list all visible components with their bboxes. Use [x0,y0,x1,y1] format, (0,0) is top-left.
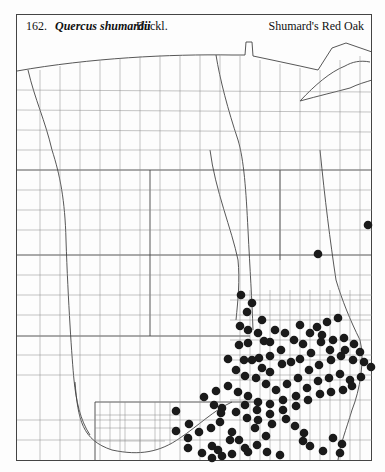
occurrence-dot [305,366,314,375]
occurrence-dot [172,407,181,416]
occurrence-dot [236,322,245,331]
occurrence-dot [268,420,277,429]
occurrence-dot [244,448,253,457]
occurrence-dot [258,316,267,325]
occurrence-dot [291,422,300,431]
occurrence-dot [240,356,249,365]
occurrence-dot [262,432,271,441]
occurrence-dot [243,308,252,317]
occurrence-dot [292,392,301,401]
occurrence-dot [241,401,250,410]
occurrence-dot [254,416,263,425]
occurrence-dot [244,339,253,348]
occurrence-dot [336,370,345,379]
occurrence-dot [279,396,288,405]
occurrence-dot [243,414,252,423]
occurrence-dot [276,451,285,460]
occurrence-dot [234,388,243,397]
occurrence-dot [241,372,250,381]
occurrence-dot [172,427,181,436]
occurrence-dot [278,360,287,369]
occurrence-dot [254,329,263,338]
range-map-page: 162. Quercus shumardii Buckl. Shumard's … [0,0,385,472]
occurrence-dot [235,436,244,445]
occurrence-dot [226,436,235,445]
occurrence-dot [283,380,292,389]
occurrence-dot [228,450,237,459]
occurrence-dot [208,454,217,463]
occurrence-dot [315,361,324,370]
occurrence-dot [184,434,193,443]
occurrence-dot [237,291,246,300]
occurrence-dot [216,418,225,427]
occurrence-dot [266,400,275,409]
occurrence-dot [287,358,296,367]
occurrence-dot [272,386,281,395]
occurrence-dot [323,318,332,327]
occurrence-dot [300,429,309,438]
occurrence-dot [254,398,263,407]
occurrence-dot [350,340,359,349]
occurrence-dot [304,396,313,405]
occurrence-dot [263,448,272,457]
occurrence-dot [281,329,290,338]
occurrence-dot [294,374,303,383]
occurrence-dot [232,408,241,417]
occurrence-dot [282,415,291,424]
occurrence-dot [210,401,219,410]
occurrence-dot [195,428,204,437]
occurrence-dot [212,387,221,396]
occurrence-dot [329,336,338,345]
occurrence-dot [364,221,373,230]
occurrence-dot [318,331,327,340]
occurrence-dot [252,374,261,383]
occurrence-dot [290,336,299,345]
occurrence-dot [339,386,348,395]
county-outline-map [0,0,385,472]
occurrence-dot [299,437,308,446]
occurrence-dot [266,338,275,347]
occurrence-dot [228,428,237,437]
occurrence-dot [217,409,226,418]
occurrence-dot [327,388,336,397]
occurrence-dot [279,406,288,415]
occurrence-dot [262,380,271,389]
occurrence-dot [316,390,325,399]
occurrence-dot [292,402,301,411]
occurrence-dot [306,329,315,338]
occurrence-dot [327,356,336,365]
occurrence-dot [235,341,244,350]
occurrence-dots [172,221,376,463]
occurrence-dot [313,323,322,332]
occurrence-dot [357,373,366,382]
occurrence-dot [253,406,262,415]
occurrence-dot [307,349,316,358]
occurrence-dot [303,384,312,393]
occurrence-dot [244,392,253,401]
occurrence-dot [340,334,349,343]
occurrence-dot [314,250,323,259]
occurrence-dot [207,424,216,433]
occurrence-dot [296,355,305,364]
occurrence-dot [200,393,209,402]
occurrence-dot [266,368,275,377]
occurrence-dot [367,363,376,372]
occurrence-dot [266,410,275,419]
occurrence-dot [349,356,358,365]
occurrence-dot [224,355,233,364]
occurrence-dot [334,314,343,323]
occurrence-dot [224,382,233,391]
occurrence-dot [185,420,194,429]
occurrence-dot [299,340,308,349]
occurrence-dot [306,442,315,451]
occurrence-dot [218,452,227,461]
occurrence-dot [314,377,323,386]
occurrence-dot [251,424,260,433]
occurrence-dot [248,356,257,365]
occurrence-dot [184,444,193,453]
occurrence-dot [338,440,347,449]
occurrence-dot [271,326,280,335]
occurrence-dot [296,321,305,330]
occurrence-dot [348,382,357,391]
occurrence-dot [266,352,275,361]
